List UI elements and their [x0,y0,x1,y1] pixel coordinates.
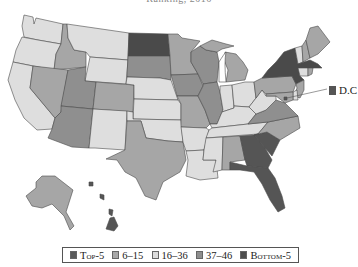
state-IA[interactable] [171,74,203,96]
legend: Top-5 6–15 16–36 37–46 Bottom-5 [62,247,299,263]
us-choropleth-map [0,0,358,267]
state-DE[interactable] [293,90,298,100]
legend-swatch-16-36 [152,251,159,259]
legend-item-37-46: 37–46 [196,250,232,261]
legend-item-6-15: 6–15 [112,250,143,261]
legend-label-16-36: 16–36 [162,250,188,261]
state-WY[interactable] [85,57,128,84]
legend-label-top5: Top-5 [80,250,104,261]
legend-swatch-top5 [70,251,77,259]
legend-swatch-6-15 [112,251,119,259]
legend-item-bottom5: Bottom-5 [240,250,291,261]
state-HI-1[interactable] [89,182,93,186]
state-KS[interactable] [133,99,181,120]
legend-swatch-bottom5 [240,251,247,259]
state-FL[interactable] [230,162,285,212]
dc-callout: D.C [329,84,357,96]
state-ND[interactable] [128,33,170,56]
legend-label-bottom5: Bottom-5 [250,250,291,261]
state-DC[interactable] [284,97,287,100]
lake-michigan [219,52,226,82]
state-RI[interactable] [308,68,313,76]
dc-label-text: D.C [339,84,357,96]
state-HI-2[interactable] [100,194,104,200]
legend-item-16-36: 16–36 [152,250,188,261]
state-CT[interactable] [298,68,308,76]
state-CO[interactable] [93,82,134,112]
legend-label-37-46: 37–46 [206,250,232,261]
dc-swatch [329,86,336,95]
state-ME[interactable] [306,26,330,58]
legend-item-top5: Top-5 [70,250,104,261]
state-NM[interactable] [89,109,127,150]
legend-swatch-37-46 [196,251,203,259]
state-NE[interactable] [126,77,178,100]
state-MI[interactable] [224,52,248,82]
state-SD[interactable] [127,56,171,80]
state-HI-3[interactable] [109,209,113,216]
legend-label-6-15: 6–15 [122,250,143,261]
state-AK[interactable] [26,176,74,230]
state-HI-4[interactable] [106,217,118,231]
